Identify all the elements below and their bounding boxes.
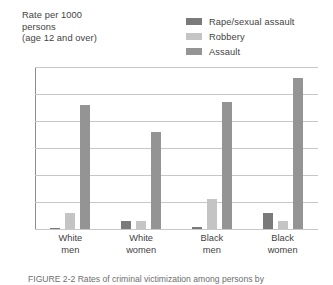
bar-group: [177, 67, 248, 229]
legend-item: Rape/sexual assault: [186, 14, 295, 29]
legend-label: Robbery: [209, 32, 245, 42]
bar-set: [177, 67, 248, 229]
bar: [121, 221, 131, 229]
bar: [192, 227, 202, 229]
legend-swatch-robbery: [186, 33, 202, 40]
legend-label: Rape/sexual assault: [209, 17, 295, 27]
bar: [278, 221, 288, 229]
bar-set: [247, 67, 318, 229]
bar: [263, 213, 273, 229]
bar-groups: [35, 67, 318, 229]
x-axis-label: Black men: [177, 233, 248, 256]
figure-caption: FIGURE 2-2 Rates of criminal victimizati…: [28, 274, 333, 285]
legend-swatch-rape-sexual-assault: [186, 18, 202, 25]
legend-item: Assault: [186, 44, 295, 59]
bar-group: [247, 67, 318, 229]
x-axis-label: Black women: [247, 233, 318, 256]
legend-item: Robbery: [186, 29, 295, 44]
y-axis-title: Rate per 1000 persons (age 12 and over): [22, 10, 97, 45]
legend-label: Assault: [209, 47, 240, 57]
bar-set: [35, 67, 106, 229]
bar: [207, 199, 217, 229]
x-axis-label: White women: [106, 233, 177, 256]
plot-area: 051015202530: [35, 67, 318, 229]
legend-swatch-assault: [186, 48, 202, 55]
bar: [80, 105, 90, 229]
x-axis-labels: White menWhite womenBlack menBlack women: [35, 233, 318, 256]
bar: [65, 213, 75, 229]
bar: [151, 132, 161, 229]
bar-set: [106, 67, 177, 229]
bar: [222, 102, 232, 229]
bar: [136, 221, 146, 229]
bar-group: [106, 67, 177, 229]
figure-container: Rate per 1000 persons (age 12 and over) …: [0, 0, 333, 285]
x-axis-label: White men: [35, 233, 106, 256]
gridline: [35, 229, 318, 230]
chart-legend: Rape/sexual assault Robbery Assault: [186, 14, 295, 60]
bar-group: [35, 67, 106, 229]
bar: [293, 78, 303, 229]
bar: [50, 228, 60, 229]
